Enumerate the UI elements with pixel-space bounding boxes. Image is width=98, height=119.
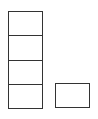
stack-cell-2 [8, 60, 43, 85]
stack-cell-1 [8, 35, 43, 60]
single-block [55, 83, 90, 108]
stack-cell-0 [8, 11, 43, 36]
stack-cell-3 [8, 84, 43, 109]
